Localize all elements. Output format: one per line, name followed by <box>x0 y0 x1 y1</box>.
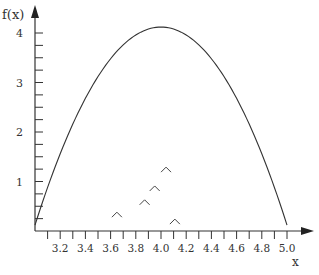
curve-line <box>35 27 287 225</box>
x-tick-label: 4.8 <box>253 242 270 254</box>
x-tick-label: 3.2 <box>52 242 69 254</box>
x-axis-arrow-icon <box>301 227 314 235</box>
y-tick-label: 4 <box>16 27 23 40</box>
y-tick-label: 3 <box>16 77 23 90</box>
chart: 1234 3.23.43.63.84.04.24.44.64.85.0 f(x)… <box>0 0 319 275</box>
x-tick-label: 4.2 <box>178 242 195 254</box>
x-tick-label: 3.8 <box>127 242 144 254</box>
x-tick-label: 3.6 <box>102 242 119 254</box>
caret-marker-icon <box>150 186 160 191</box>
y-ticks <box>35 33 43 219</box>
y-tick-label: 2 <box>16 126 23 139</box>
x-ticks <box>48 231 287 239</box>
y-axis-arrow-icon <box>31 5 39 18</box>
x-tick-labels: 3.23.43.63.84.04.24.44.64.85.0 <box>52 242 296 254</box>
axes <box>35 14 305 231</box>
y-axis-label: f(x) <box>2 7 24 22</box>
caret-marker-icon <box>170 219 180 224</box>
caret-marker-icon <box>161 167 171 172</box>
y-tick-label: 1 <box>16 176 23 189</box>
x-tick-label: 4.6 <box>228 242 245 254</box>
caret-marker-icon <box>140 200 150 205</box>
x-tick-label: 4.0 <box>153 242 170 254</box>
x-tick-label: 3.4 <box>77 242 94 254</box>
y-tick-labels: 1234 <box>16 27 23 189</box>
scatter-markers <box>112 167 180 224</box>
x-axis-label: x <box>292 255 299 269</box>
x-tick-label: 4.4 <box>203 242 220 254</box>
x-tick-label: 5.0 <box>279 242 296 254</box>
caret-marker-icon <box>112 212 122 217</box>
